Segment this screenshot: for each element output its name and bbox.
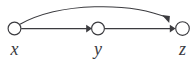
node-z-label: z	[163, 40, 196, 58]
edge-x-to-z	[20, 7, 170, 25]
node-z-circle[interactable]	[176, 22, 190, 36]
edge-x-to-z-arrowhead-icon	[162, 15, 170, 23]
node-x-circle[interactable]	[8, 22, 21, 35]
node-x-label: x	[0, 40, 35, 58]
node-y-circle[interactable]	[92, 22, 105, 35]
edge-x-to-y	[21, 25, 92, 33]
edge-x-to-z-path	[20, 7, 167, 25]
edge-y-to-z-arrowhead-icon	[170, 25, 176, 33]
causal-graph-diagram: x y z	[0, 0, 195, 69]
edge-y-to-z	[105, 25, 176, 33]
node-y-label: y	[78, 40, 118, 58]
